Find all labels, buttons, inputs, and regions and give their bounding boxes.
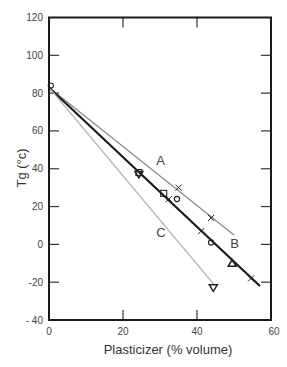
x-marker-icon: [176, 185, 182, 191]
line-b: [49, 87, 260, 286]
x-tick-label: 40: [191, 326, 203, 337]
line-labels: ABC: [156, 153, 239, 251]
x-tick-label: 20: [117, 326, 129, 337]
x-axis-title: Plasticizer (% volume): [104, 342, 233, 357]
line-label-c: C: [156, 225, 165, 240]
x-tick-label: 0: [46, 326, 52, 337]
y-tick-label: 120: [26, 12, 43, 23]
line-c: [49, 87, 214, 284]
line-label-a: A: [156, 153, 165, 168]
y-tick-label: -20: [29, 277, 44, 288]
y-tick-label: 0: [37, 239, 43, 250]
tg-vs-plasticizer-chart: 0204060- 40-20020406080100120 ABC Plasti…: [0, 0, 287, 367]
plot-frame: [49, 18, 271, 321]
y-axis-title: Tg (°c): [14, 148, 29, 187]
axis-ticks: [49, 18, 271, 321]
y-tick-label: 20: [32, 201, 44, 212]
y-tick-label: 80: [32, 88, 44, 99]
circle-marker-icon: [174, 196, 179, 201]
y-tick-label: - 40: [26, 315, 44, 326]
line-label-b: B: [230, 236, 239, 251]
triangle-down-marker-icon: [209, 285, 217, 292]
x-tick-label: 60: [268, 326, 280, 337]
y-tick-label: 40: [32, 163, 44, 174]
line-a: [49, 87, 234, 234]
data-points: [48, 83, 254, 291]
y-tick-label: 100: [26, 50, 43, 61]
regression-lines: [49, 87, 260, 286]
tick-labels: 0204060- 40-20020406080100120: [26, 12, 280, 337]
y-tick-label: 60: [32, 125, 44, 136]
triangle-up-marker-icon: [228, 260, 236, 267]
